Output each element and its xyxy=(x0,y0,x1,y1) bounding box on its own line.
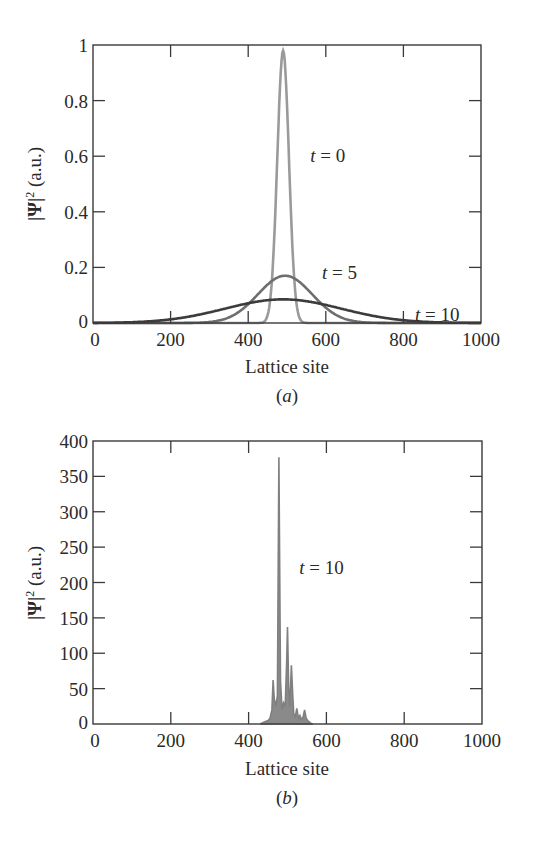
curve-annotations-b: t = 10 xyxy=(299,557,344,578)
x-tick-label: 200 xyxy=(156,329,185,350)
y-tick-labels-a: 00.20.40.60.81 xyxy=(64,35,88,332)
x-tick-label: 200 xyxy=(157,730,186,751)
x-axis-title-a: Lattice site xyxy=(245,356,329,377)
y-tick-label: 150 xyxy=(60,608,89,629)
y-tick-label: 0.2 xyxy=(64,257,88,278)
curve-label: t = 5 xyxy=(322,262,357,283)
curve-label: t = 0 xyxy=(310,145,345,166)
y-tick-label: 0.4 xyxy=(64,202,88,223)
y-tick-label: 0 xyxy=(79,712,89,733)
caption-a: (a) xyxy=(276,385,298,407)
y-tick-label: 200 xyxy=(60,573,89,594)
x-tick-label: 400 xyxy=(234,730,263,751)
curve-label: t = 10 xyxy=(299,557,344,578)
plot-curves-b xyxy=(260,457,313,724)
figure: 02004006008001000 00.20.40.60.81 Lattice… xyxy=(0,0,533,846)
x-tick-label: 800 xyxy=(390,730,419,751)
chart-panel-b: 02004006008001000 0501001502002503003504… xyxy=(23,431,501,809)
series-line xyxy=(93,51,481,323)
y-axis-title-b: |Ψ|2 (a.u.) xyxy=(23,546,46,620)
y-axis-psi-b: |Ψ| xyxy=(24,597,45,620)
plot-curves-a xyxy=(93,51,481,323)
y-axis-psi-a: |Ψ| xyxy=(24,198,45,221)
x-axis-title-b: Lattice site xyxy=(245,758,329,779)
y-tick-label: 100 xyxy=(60,643,89,664)
x-tick-label: 1000 xyxy=(463,730,501,751)
y-tick-label: 400 xyxy=(60,431,89,452)
y-tick-label: 250 xyxy=(60,537,89,558)
x-tick-label: 0 xyxy=(90,329,100,350)
y-tick-label: 0.8 xyxy=(64,91,88,112)
y-tick-label: 50 xyxy=(69,679,88,700)
svg-text:|Ψ|2 (a.u.): |Ψ|2 (a.u.) xyxy=(23,546,46,620)
curve-label: t = 10 xyxy=(415,304,460,325)
y-tick-label: 0.6 xyxy=(64,146,88,167)
x-tick-label: 600 xyxy=(312,329,341,350)
x-tick-label: 400 xyxy=(234,329,263,350)
y-tick-label: 1 xyxy=(79,35,89,56)
series-area xyxy=(260,457,313,724)
curve-annotations-a: t = 0t = 5t = 10 xyxy=(310,145,459,324)
x-tick-label: 600 xyxy=(312,730,341,751)
y-tick-labels-b: 050100150200250300350400 xyxy=(60,431,89,733)
svg-text:|Ψ|2 (a.u.): |Ψ|2 (a.u.) xyxy=(23,147,46,221)
y-tick-label: 350 xyxy=(60,466,89,487)
x-tick-label: 800 xyxy=(389,329,418,350)
y-tick-label: 300 xyxy=(60,502,89,523)
x-tick-label: 1000 xyxy=(462,329,500,350)
x-tick-labels-b: 02004006008001000 xyxy=(90,730,501,751)
chart-panel-a: 02004006008001000 00.20.40.60.81 Lattice… xyxy=(23,35,500,407)
y-axis-title-a: |Ψ|2 (a.u.) xyxy=(23,147,46,221)
x-tick-label: 0 xyxy=(90,730,100,751)
y-tick-label: 0 xyxy=(79,311,89,332)
x-tick-labels-a: 02004006008001000 xyxy=(90,329,500,350)
caption-b: (b) xyxy=(276,787,298,809)
